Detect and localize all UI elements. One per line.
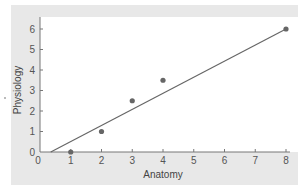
x-tick-label: 2: [99, 155, 105, 166]
data-point: [283, 26, 288, 31]
y-tick-label: 2: [29, 106, 35, 117]
data-point: [68, 149, 73, 154]
data-points: [68, 26, 288, 154]
axes: [40, 17, 290, 152]
x-tick-label: 4: [160, 155, 166, 166]
x-tick-label: 8: [283, 155, 289, 166]
y-tick-label: 4: [29, 65, 35, 76]
x-tick-label: 5: [191, 155, 197, 166]
y-tick-label: 3: [29, 85, 35, 96]
y-axis-label: Physiology: [12, 66, 23, 114]
x-tick-label: 7: [252, 155, 258, 166]
data-point: [160, 78, 165, 83]
x-tick-label: 6: [222, 155, 228, 166]
y-tick-label: 0: [29, 147, 35, 158]
y-tick-label: 6: [29, 24, 35, 35]
y-ticks: 0123456: [29, 24, 43, 158]
scatter-chart: 012345678 0123456 Anatomy Physiology: [0, 0, 306, 196]
regression-line-path: [51, 29, 286, 152]
x-tick-label: 1: [68, 155, 74, 166]
x-tick-label: 0: [35, 155, 41, 166]
x-axis-label: Anatomy: [143, 169, 182, 180]
data-point: [99, 129, 104, 134]
x-tick-label: 3: [129, 155, 135, 166]
data-point: [130, 98, 135, 103]
y-tick-label: 1: [29, 126, 35, 137]
regression-line: [51, 29, 286, 152]
y-tick-label: 5: [29, 44, 35, 55]
